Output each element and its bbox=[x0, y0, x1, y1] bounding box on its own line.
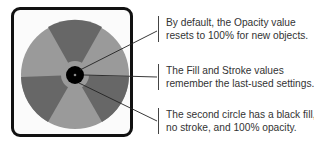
callout-second-circle: The second circle has a black fill, no s… bbox=[158, 108, 314, 134]
callout-opacity: By default, the Opacity value resets to … bbox=[158, 16, 314, 42]
callout-fill-stroke: The Fill and Stroke values remember the … bbox=[158, 64, 314, 90]
center-point bbox=[74, 74, 77, 77]
